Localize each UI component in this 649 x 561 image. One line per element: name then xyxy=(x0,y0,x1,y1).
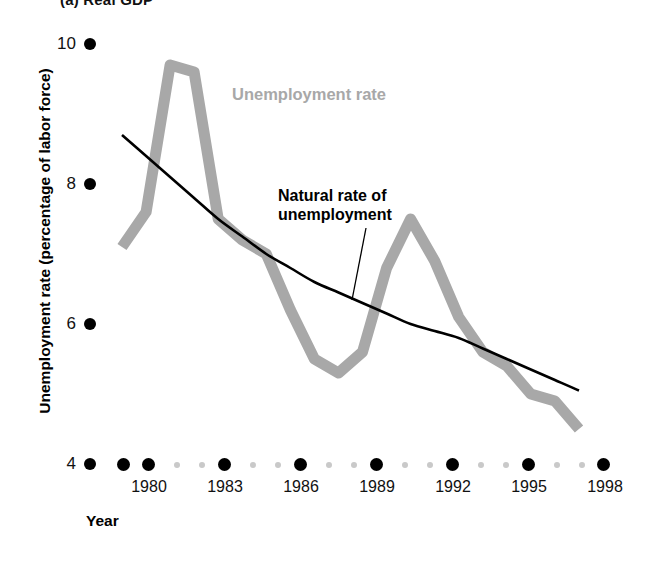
unemployment-rate-line xyxy=(122,65,579,429)
series-label-unemployment-rate: Unemployment rate xyxy=(232,85,386,104)
annotation-leader-line xyxy=(352,228,366,300)
unemployment-rate-chart: (a) Real GDP Unemployment rate (percenta… xyxy=(0,0,649,561)
natural-label-line-2: unemployment xyxy=(278,205,392,224)
natural-rate-line xyxy=(122,135,579,391)
series-label-natural-rate: Natural rate of unemployment xyxy=(278,186,392,224)
natural-label-line-1: Natural rate of xyxy=(278,186,392,205)
